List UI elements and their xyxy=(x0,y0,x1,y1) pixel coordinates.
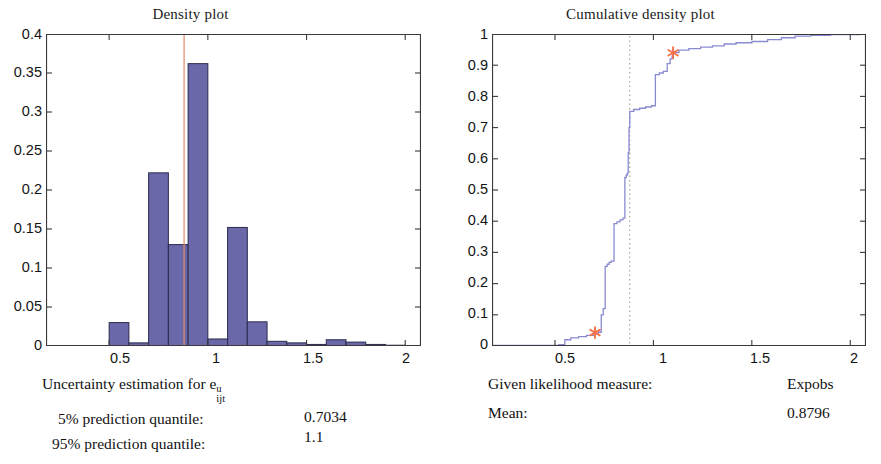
cumulative-xtick-1.5: 1.5 xyxy=(740,350,780,366)
cumulative-ytick-0.2: 0.2 xyxy=(448,274,488,290)
density-plot-canvas xyxy=(46,34,421,346)
density-ytick-0.25: 0.25 xyxy=(2,142,42,158)
quantile-95-value: 1.1 xyxy=(304,428,323,446)
density-ytick-0.15: 0.15 xyxy=(2,220,42,236)
histogram-bar xyxy=(149,173,169,346)
likelihood-measure-label: Given likelihood measure: xyxy=(488,375,652,393)
cumulative-plot-axes xyxy=(492,34,866,346)
likelihood-measure-value: Expobs xyxy=(787,375,834,393)
cumulative-axis-frame xyxy=(493,35,866,346)
caption-superscript-u: u xyxy=(216,383,221,394)
histogram-bar xyxy=(168,245,188,346)
cumulative-ytick-0.9: 0.9 xyxy=(448,57,488,73)
density-ytick-0.35: 0.35 xyxy=(2,64,42,80)
cumulative-axis-ticks xyxy=(492,34,866,346)
quantile-5-label: 5% prediction quantile: xyxy=(58,410,204,428)
density-plot-title: Density plot xyxy=(0,6,411,23)
density-plot-axes xyxy=(46,34,421,346)
cumulative-xtick-0.5: 0.5 xyxy=(545,350,585,366)
quantile-95-label: 95% prediction quantile: xyxy=(52,435,205,453)
cumulative-ytick-0.7: 0.7 xyxy=(448,119,488,135)
density-ytick-0.1: 0.1 xyxy=(2,259,42,275)
caption-prefix-text: Uncertainty estimation for xyxy=(42,375,209,392)
density-ytick-0.3: 0.3 xyxy=(2,103,42,119)
caption-subscript-ijt: ijt xyxy=(216,393,225,404)
histogram-bar xyxy=(188,64,208,346)
cumulative-density-panel: Cumulative density plot 1 0.9 0.8 0.7 0.… xyxy=(440,0,881,464)
histogram-bar xyxy=(109,323,129,346)
density-plot-caption: Uncertainty estimation for euijt xyxy=(42,375,230,393)
cumulative-plot-canvas xyxy=(492,34,866,346)
density-xtick-0.5: 0.5 xyxy=(100,350,140,366)
mean-value: 0.8796 xyxy=(787,404,830,422)
cumulative-plot-title: Cumulative density plot xyxy=(420,6,861,23)
density-xtick-1: 1 xyxy=(196,350,236,366)
cumulative-xtick-2: 2 xyxy=(834,350,874,366)
density-ytick-0: 0 xyxy=(2,337,42,353)
cumulative-ytick-0.4: 0.4 xyxy=(448,212,488,228)
caption-variable-e: e xyxy=(209,375,216,392)
cumulative-ytick-0.8: 0.8 xyxy=(448,88,488,104)
cumulative-ytick-1: 1 xyxy=(448,26,488,42)
cumulative-xtick-1: 1 xyxy=(643,350,683,366)
quantile-markers xyxy=(590,47,678,338)
density-ytick-0.05: 0.05 xyxy=(2,298,42,314)
density-plot-panel: Density plot 0.4 0.35 0.3 0.25 0.2 0.15 … xyxy=(0,0,441,464)
cumulative-ytick-0.3: 0.3 xyxy=(448,243,488,259)
cumulative-ytick-0.6: 0.6 xyxy=(448,150,488,166)
cumulative-ytick-0.5: 0.5 xyxy=(448,181,488,197)
histogram-bar xyxy=(228,227,248,346)
cumulative-density-curve xyxy=(492,34,866,345)
density-xtick-1.5: 1.5 xyxy=(293,350,333,366)
cumulative-ytick-0.1: 0.1 xyxy=(448,305,488,321)
density-ytick-0.4: 0.4 xyxy=(2,26,42,42)
cumulative-ytick-0: 0 xyxy=(448,336,488,352)
quantile-5-value: 0.7034 xyxy=(304,408,347,426)
histogram-bar xyxy=(247,322,267,346)
density-xtick-2: 2 xyxy=(386,350,426,366)
density-ytick-0.2: 0.2 xyxy=(2,181,42,197)
mean-label: Mean: xyxy=(488,404,528,422)
uncertainty-estimation-figure: Density plot 0.4 0.35 0.3 0.25 0.2 0.15 … xyxy=(0,0,881,464)
histogram-bars xyxy=(109,64,405,346)
